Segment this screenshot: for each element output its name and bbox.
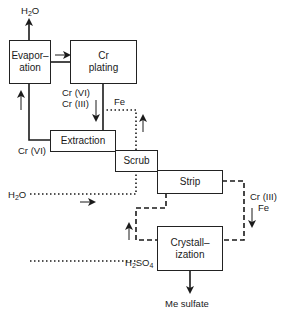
scrub-box: Scrub (115, 150, 158, 172)
extraction-label: Extraction (61, 135, 105, 147)
strip-box: Strip (157, 170, 223, 194)
h2o-left-label: H2O (8, 189, 26, 203)
h2o-scrub-line (30, 171, 136, 194)
evaporation-label-2: ation (19, 62, 41, 73)
cr-iii-fe-line (222, 181, 244, 240)
me-sulfate-label: Me sulfate (165, 298, 209, 309)
cr-plating-label-2: plating (89, 62, 118, 73)
cr-plating-box: Crplating (70, 40, 137, 84)
fe-top-label: Fe (114, 96, 125, 107)
h2so4-label: H2SO4 (125, 257, 153, 271)
cr-plating-label-1: Cr (98, 50, 109, 61)
cr-vi-left-label: Cr (VI) (18, 145, 46, 156)
evaporation-label-1: Evapor– (11, 50, 48, 61)
strip-label: Strip (180, 176, 201, 188)
h2o-top-label: H2O (21, 5, 39, 19)
crystallization-label-2: ization (176, 249, 205, 260)
cr-vi-return-line (29, 83, 50, 140)
extraction-box: Extraction (50, 130, 116, 152)
cr-vi-cr-iii-label: Cr (VI)Cr (III) (62, 87, 90, 109)
crystallization-label-1: Crystall– (171, 237, 210, 248)
crystallization-box: Crystall–ization (157, 226, 223, 271)
evaporation-box: Evapor–ation (9, 40, 51, 84)
cr-iii-fe-label: Cr (III)Fe (250, 191, 277, 213)
scrub-label: Scrub (123, 155, 149, 167)
